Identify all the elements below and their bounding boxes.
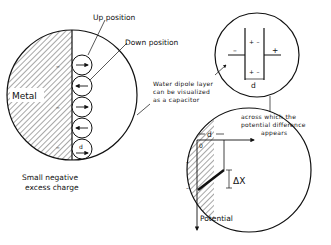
up-position-label: Up position xyxy=(93,13,136,22)
svg-text:ΔX: ΔX xyxy=(233,176,245,186)
metal-label: Metal xyxy=(12,91,37,101)
svg-text:+ –: + – xyxy=(249,68,260,75)
potential-note: across which the potential difference ap… xyxy=(241,113,306,137)
capacitor-note: Water dipole layer can be visualized as … xyxy=(137,65,226,115)
water-dipole: d xyxy=(72,139,92,159)
caption-line-2: excess charge xyxy=(25,183,79,192)
svg-text:+ –: + – xyxy=(249,38,260,45)
svg-text:potential difference: potential difference xyxy=(241,121,306,129)
negative-sign: – xyxy=(56,143,60,152)
dipole-width-label: d xyxy=(79,143,83,150)
water-dipole xyxy=(72,55,92,75)
svg-text:–: – xyxy=(186,158,189,165)
water-dipole xyxy=(72,76,92,96)
svg-text:–: – xyxy=(186,184,189,191)
svg-text:+: + xyxy=(272,46,278,55)
caption-line-1: Small negative xyxy=(22,173,78,182)
svg-text:d: d xyxy=(251,81,256,90)
negative-sign: – xyxy=(56,103,60,112)
metal-water-interface-circle: Metal – – – d Up position Down p xyxy=(0,13,179,192)
electrode-double-layer-diagram: Metal – – – d Up position Down p xyxy=(0,0,331,245)
svg-text:–: – xyxy=(233,46,237,55)
svg-text:d: d xyxy=(207,130,212,139)
svg-text:0: 0 xyxy=(199,142,203,149)
water-dipole xyxy=(72,97,92,117)
svg-text:can be visualized: can be visualized xyxy=(153,88,210,95)
water-dipole xyxy=(72,118,92,138)
svg-text:across which the: across which the xyxy=(241,113,296,120)
svg-text:appears: appears xyxy=(261,129,287,137)
capacitor-circle: – + + – + – d xyxy=(215,13,299,112)
potential-axis-label: Potential xyxy=(200,214,233,223)
negative-sign: – xyxy=(56,62,60,71)
svg-text:as a capacitor: as a capacitor xyxy=(153,96,200,104)
down-position-label: Down position xyxy=(125,38,179,47)
svg-text:Water dipole layer: Water dipole layer xyxy=(153,80,214,88)
